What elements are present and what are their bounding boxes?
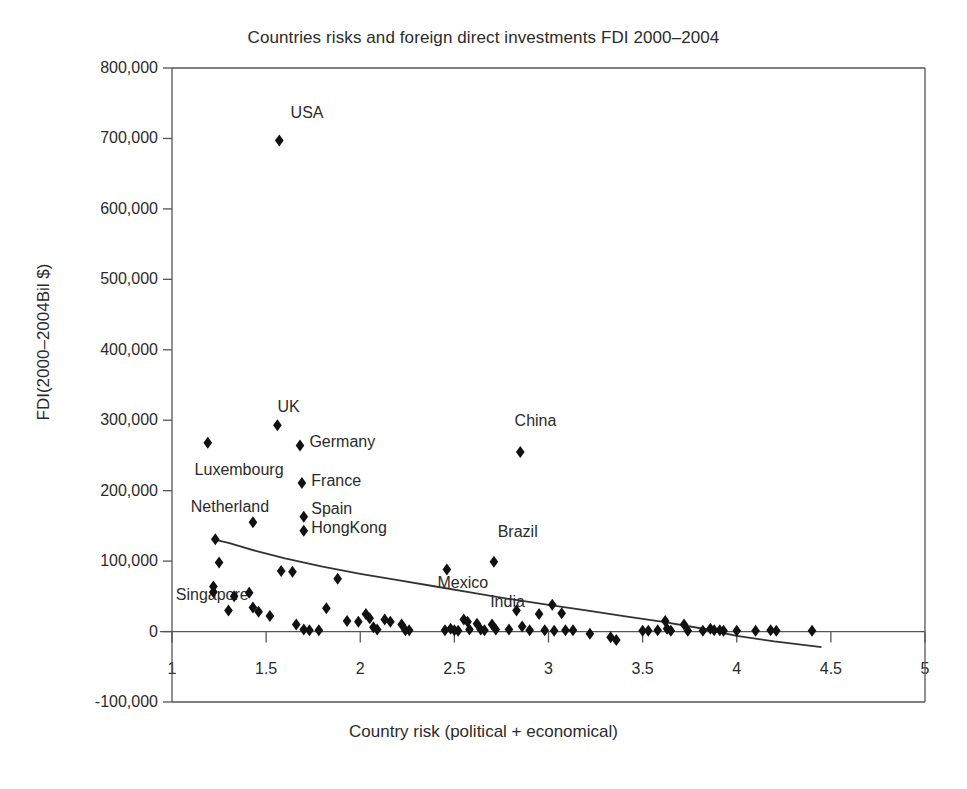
data-point-marker bbox=[540, 624, 549, 636]
data-point-marker bbox=[315, 624, 324, 636]
scatter-chart: Countries risks and foreign direct inves… bbox=[0, 0, 967, 789]
data-point-marker bbox=[505, 623, 514, 635]
data-point-marker bbox=[299, 525, 308, 537]
data-point-marker bbox=[277, 565, 286, 577]
data-point-marker bbox=[298, 477, 307, 489]
data-point-marker bbox=[299, 511, 308, 523]
data-point-marker bbox=[512, 604, 521, 616]
data-point-marker bbox=[557, 607, 566, 619]
data-point-marker bbox=[561, 624, 570, 636]
data-point-marker bbox=[516, 446, 525, 458]
data-point-marker bbox=[548, 599, 557, 611]
data-point-marker bbox=[699, 625, 708, 637]
data-point-marker bbox=[443, 564, 452, 576]
data-point-marker bbox=[203, 437, 212, 449]
data-point-marker bbox=[808, 625, 817, 637]
data-point-marker bbox=[245, 587, 254, 599]
data-point-marker bbox=[518, 621, 527, 633]
data-point-marker bbox=[586, 628, 595, 640]
data-point-marker bbox=[569, 624, 578, 636]
data-point-marker bbox=[535, 608, 544, 620]
data-point-marker bbox=[288, 566, 297, 578]
data-point-marker bbox=[273, 419, 282, 431]
data-point-marker bbox=[266, 610, 275, 622]
data-point-marker bbox=[275, 135, 284, 147]
data-point-marker bbox=[490, 556, 499, 568]
data-point-marker bbox=[751, 625, 760, 637]
data-point-marker bbox=[322, 602, 331, 614]
data-point-marker bbox=[224, 604, 233, 616]
data-point-marker bbox=[215, 557, 224, 569]
data-point-marker bbox=[772, 625, 781, 637]
data-point-marker bbox=[550, 625, 559, 637]
data-point-marker bbox=[230, 590, 239, 602]
data-point-marker bbox=[296, 440, 305, 452]
data-point-marker bbox=[249, 516, 258, 528]
data-point-marker bbox=[292, 619, 301, 631]
data-point-marker bbox=[343, 615, 352, 627]
data-point-marker bbox=[525, 624, 534, 636]
data-point-marker bbox=[653, 624, 662, 636]
data-point-marker bbox=[305, 624, 314, 636]
data-point-marker bbox=[644, 625, 653, 637]
data-point-marker bbox=[211, 533, 220, 545]
plot-area bbox=[0, 0, 967, 789]
data-point-marker bbox=[333, 573, 342, 585]
data-point-marker bbox=[354, 616, 363, 628]
